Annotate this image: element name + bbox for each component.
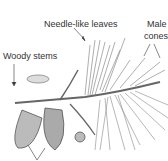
label-needle-like-leaves: Needle-like leaves xyxy=(44,19,118,29)
female-cones xyxy=(15,108,85,150)
label-male: Male xyxy=(147,19,167,29)
label-woody-stems: Woody stems xyxy=(3,51,57,61)
label-cones: cones xyxy=(144,31,168,41)
pine-branch-diagram: Needle-like leaves Male cones Woody stem… xyxy=(0,0,168,161)
